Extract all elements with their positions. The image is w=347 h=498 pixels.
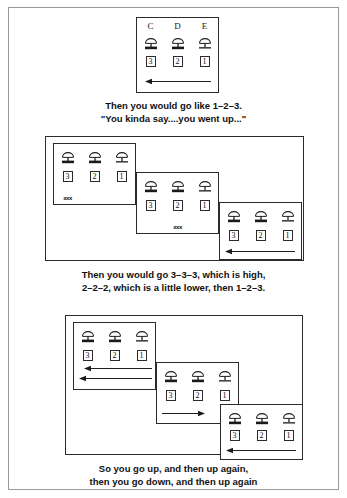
number-box[interactable]: 3 bbox=[63, 171, 73, 182]
tone-panel[interactable]: C D E 3 2 bbox=[136, 17, 219, 93]
number-box[interactable]: 2 bbox=[173, 200, 183, 211]
lamp-icon[interactable] bbox=[196, 178, 214, 193]
lamp-icon[interactable] bbox=[142, 35, 160, 50]
lamp-icon[interactable] bbox=[113, 149, 131, 164]
lamp-icon[interactable] bbox=[162, 368, 180, 383]
caption-line: 2–2–2, which is a little lower, then 1–2… bbox=[9, 282, 338, 295]
caption-line: "You kinda say....you went up..." bbox=[9, 113, 338, 126]
figure-page: C D E 3 2 bbox=[8, 7, 339, 490]
arrow-left-icon bbox=[226, 447, 296, 454]
number-box[interactable]: 2 bbox=[193, 390, 203, 401]
lamp-icon[interactable] bbox=[86, 149, 104, 164]
lamp-icon[interactable] bbox=[59, 149, 77, 164]
tone-panel[interactable]: 3 2 1 xxx bbox=[53, 143, 136, 205]
lamp-icon[interactable] bbox=[225, 208, 243, 223]
number-box[interactable]: 2 bbox=[257, 430, 267, 441]
number-box[interactable]: 3 bbox=[230, 430, 240, 441]
number-box[interactable]: 3 bbox=[83, 350, 93, 361]
lamp-icon[interactable] bbox=[279, 208, 297, 223]
caption-line: Then you would go like 1–2–3. bbox=[9, 100, 338, 113]
arrow-left-icon bbox=[79, 375, 152, 382]
arrow-left-icon bbox=[225, 248, 295, 255]
lamp-icon[interactable] bbox=[79, 328, 97, 343]
lamp-icon[interactable] bbox=[226, 410, 244, 425]
tone-panel[interactable]: 3 2 1 bbox=[73, 322, 156, 390]
number-box[interactable]: 1 bbox=[283, 230, 293, 241]
lamp-icon[interactable] bbox=[196, 35, 214, 50]
lamp-icon[interactable] bbox=[142, 178, 160, 193]
lamp-icon[interactable] bbox=[169, 35, 187, 50]
lamp-icon[interactable] bbox=[252, 208, 270, 223]
caption-line: then you go down, and then up again bbox=[9, 476, 338, 489]
lamp-icon[interactable] bbox=[216, 368, 234, 383]
number-box[interactable]: 1 bbox=[200, 200, 210, 211]
number-box[interactable]: 2 bbox=[90, 171, 100, 182]
number-box[interactable]: 1 bbox=[284, 430, 294, 441]
number-box[interactable]: 3 bbox=[146, 200, 156, 211]
arrow-left-icon bbox=[145, 78, 211, 85]
number-box[interactable]: 2 bbox=[256, 230, 266, 241]
arrow-left-icon bbox=[84, 365, 152, 372]
number-box[interactable]: 1 bbox=[200, 56, 210, 67]
lamp-icon[interactable] bbox=[189, 368, 207, 383]
number-box[interactable]: 1 bbox=[137, 350, 147, 361]
number-box[interactable]: 3 bbox=[166, 390, 176, 401]
number-box[interactable]: 1 bbox=[220, 390, 230, 401]
column-letter: D bbox=[169, 22, 187, 31]
number-box[interactable]: 3 bbox=[146, 56, 156, 67]
arrow-right-icon bbox=[162, 410, 205, 417]
caption-2: Then you would go 3–3–3, which is high, … bbox=[9, 269, 338, 294]
caption-1: Then you would go like 1–2–3. "You kinda… bbox=[9, 100, 338, 125]
tone-panel[interactable]: 3 2 1 bbox=[220, 404, 303, 460]
lamp-icon[interactable] bbox=[133, 328, 151, 343]
number-box[interactable]: 2 bbox=[173, 56, 183, 67]
xxx-marker: xxx bbox=[63, 195, 72, 201]
caption-line: So you go up, and then up again, bbox=[9, 463, 338, 476]
column-letter: C bbox=[142, 22, 160, 31]
number-box[interactable]: 1 bbox=[117, 171, 127, 182]
column-letter: E bbox=[196, 22, 214, 31]
tone-panel[interactable]: 3 2 1 xxx bbox=[136, 172, 219, 234]
caption-3: So you go up, and then up again, then yo… bbox=[9, 463, 338, 488]
lamp-icon[interactable] bbox=[169, 178, 187, 193]
number-box[interactable]: 3 bbox=[229, 230, 239, 241]
lamp-icon[interactable] bbox=[106, 328, 124, 343]
lamp-icon[interactable] bbox=[253, 410, 271, 425]
xxx-marker: xxx bbox=[173, 224, 182, 230]
lamp-icon[interactable] bbox=[280, 410, 298, 425]
tone-panel[interactable]: 3 2 1 bbox=[219, 202, 302, 260]
caption-line: Then you would go 3–3–3, which is high, bbox=[9, 269, 338, 282]
number-box[interactable]: 2 bbox=[110, 350, 120, 361]
